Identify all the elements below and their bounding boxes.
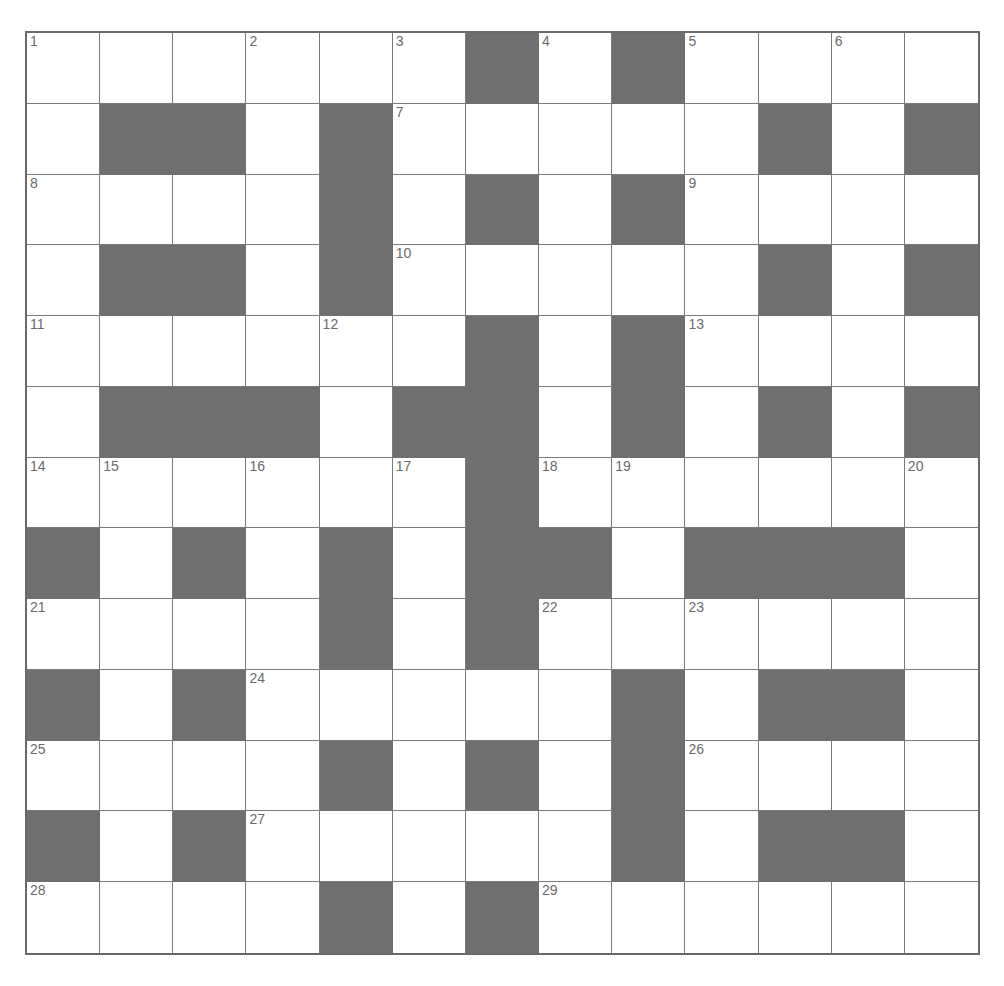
letter-cell[interactable] xyxy=(173,882,246,953)
letter-cell[interactable]: 9 xyxy=(685,175,758,246)
letter-cell[interactable] xyxy=(539,387,612,458)
letter-cell[interactable]: 15 xyxy=(100,458,173,529)
letter-cell[interactable] xyxy=(466,811,539,882)
letter-cell[interactable] xyxy=(539,741,612,812)
letter-cell[interactable] xyxy=(612,882,685,953)
letter-cell[interactable] xyxy=(100,811,173,882)
letter-cell[interactable] xyxy=(246,882,319,953)
letter-cell[interactable]: 19 xyxy=(612,458,685,529)
letter-cell[interactable]: 22 xyxy=(539,599,612,670)
letter-cell[interactable]: 26 xyxy=(685,741,758,812)
letter-cell[interactable] xyxy=(905,175,978,246)
letter-cell[interactable] xyxy=(100,599,173,670)
letter-cell[interactable] xyxy=(539,811,612,882)
letter-cell[interactable] xyxy=(246,528,319,599)
letter-cell[interactable] xyxy=(100,528,173,599)
letter-cell[interactable]: 18 xyxy=(539,458,612,529)
letter-cell[interactable] xyxy=(246,741,319,812)
letter-cell[interactable] xyxy=(539,175,612,246)
letter-cell[interactable] xyxy=(100,316,173,387)
letter-cell[interactable]: 21 xyxy=(27,599,100,670)
letter-cell[interactable] xyxy=(832,882,905,953)
letter-cell[interactable] xyxy=(832,316,905,387)
letter-cell[interactable] xyxy=(685,670,758,741)
letter-cell[interactable] xyxy=(685,104,758,175)
letter-cell[interactable] xyxy=(905,33,978,104)
letter-cell[interactable] xyxy=(685,387,758,458)
letter-cell[interactable]: 25 xyxy=(27,741,100,812)
letter-cell[interactable] xyxy=(612,104,685,175)
letter-cell[interactable]: 27 xyxy=(246,811,319,882)
letter-cell[interactable] xyxy=(320,387,393,458)
letter-cell[interactable] xyxy=(246,245,319,316)
letter-cell[interactable]: 14 xyxy=(27,458,100,529)
letter-cell[interactable]: 8 xyxy=(27,175,100,246)
letter-cell[interactable]: 17 xyxy=(393,458,466,529)
letter-cell[interactable] xyxy=(832,245,905,316)
letter-cell[interactable] xyxy=(173,175,246,246)
letter-cell[interactable] xyxy=(832,741,905,812)
letter-cell[interactable] xyxy=(466,245,539,316)
letter-cell[interactable] xyxy=(759,175,832,246)
letter-cell[interactable] xyxy=(905,599,978,670)
letter-cell[interactable] xyxy=(393,741,466,812)
letter-cell[interactable] xyxy=(759,882,832,953)
letter-cell[interactable]: 23 xyxy=(685,599,758,670)
letter-cell[interactable] xyxy=(832,104,905,175)
letter-cell[interactable]: 20 xyxy=(905,458,978,529)
letter-cell[interactable] xyxy=(759,599,832,670)
letter-cell[interactable] xyxy=(246,104,319,175)
letter-cell[interactable] xyxy=(832,458,905,529)
letter-cell[interactable] xyxy=(100,175,173,246)
letter-cell[interactable] xyxy=(320,458,393,529)
letter-cell[interactable] xyxy=(905,528,978,599)
letter-cell[interactable]: 11 xyxy=(27,316,100,387)
letter-cell[interactable] xyxy=(832,599,905,670)
letter-cell[interactable] xyxy=(246,599,319,670)
letter-cell[interactable] xyxy=(905,882,978,953)
letter-cell[interactable] xyxy=(173,741,246,812)
letter-cell[interactable] xyxy=(905,670,978,741)
letter-cell[interactable] xyxy=(393,882,466,953)
letter-cell[interactable] xyxy=(466,104,539,175)
letter-cell[interactable] xyxy=(685,245,758,316)
letter-cell[interactable]: 10 xyxy=(393,245,466,316)
letter-cell[interactable] xyxy=(905,811,978,882)
letter-cell[interactable]: 29 xyxy=(539,882,612,953)
letter-cell[interactable] xyxy=(100,33,173,104)
letter-cell[interactable] xyxy=(832,175,905,246)
letter-cell[interactable] xyxy=(246,316,319,387)
letter-cell[interactable] xyxy=(393,316,466,387)
letter-cell[interactable] xyxy=(27,245,100,316)
letter-cell[interactable]: 1 xyxy=(27,33,100,104)
letter-cell[interactable] xyxy=(173,316,246,387)
letter-cell[interactable] xyxy=(320,811,393,882)
letter-cell[interactable] xyxy=(320,670,393,741)
letter-cell[interactable] xyxy=(393,599,466,670)
letter-cell[interactable] xyxy=(685,882,758,953)
letter-cell[interactable] xyxy=(27,104,100,175)
letter-cell[interactable] xyxy=(612,599,685,670)
letter-cell[interactable]: 4 xyxy=(539,33,612,104)
letter-cell[interactable] xyxy=(393,670,466,741)
letter-cell[interactable] xyxy=(905,741,978,812)
letter-cell[interactable] xyxy=(246,175,319,246)
letter-cell[interactable] xyxy=(393,528,466,599)
letter-cell[interactable] xyxy=(685,458,758,529)
letter-cell[interactable]: 24 xyxy=(246,670,319,741)
letter-cell[interactable] xyxy=(100,741,173,812)
letter-cell[interactable]: 2 xyxy=(246,33,319,104)
letter-cell[interactable]: 28 xyxy=(27,882,100,953)
letter-cell[interactable] xyxy=(393,811,466,882)
letter-cell[interactable]: 3 xyxy=(393,33,466,104)
letter-cell[interactable]: 16 xyxy=(246,458,319,529)
letter-cell[interactable] xyxy=(612,528,685,599)
letter-cell[interactable] xyxy=(759,316,832,387)
letter-cell[interactable]: 12 xyxy=(320,316,393,387)
letter-cell[interactable] xyxy=(539,316,612,387)
letter-cell[interactable] xyxy=(759,33,832,104)
letter-cell[interactable]: 5 xyxy=(685,33,758,104)
letter-cell[interactable] xyxy=(759,741,832,812)
letter-cell[interactable] xyxy=(905,316,978,387)
letter-cell[interactable]: 6 xyxy=(832,33,905,104)
